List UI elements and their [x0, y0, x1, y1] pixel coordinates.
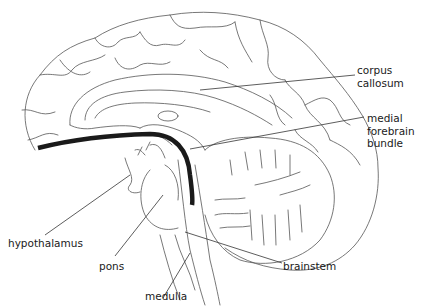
- label-corpus-callosum: corpus callosum: [357, 64, 404, 89]
- leader-hypothalamus: [45, 175, 130, 235]
- label-medulla: medulla: [145, 290, 187, 303]
- leader-pons: [115, 195, 163, 256]
- medial-forebrain-bundle-path: [38, 134, 192, 205]
- leader-brainstem: [185, 232, 282, 263]
- label-pons: pons: [99, 260, 124, 273]
- label-medial-forebrain-bundle: medial forebrain bundle: [367, 112, 415, 150]
- leader-corpus-callosum: [200, 75, 355, 90]
- brain-diagram: [0, 0, 429, 307]
- label-brainstem: brainstem: [283, 260, 336, 273]
- label-hypothalamus: hypothalamus: [8, 237, 83, 250]
